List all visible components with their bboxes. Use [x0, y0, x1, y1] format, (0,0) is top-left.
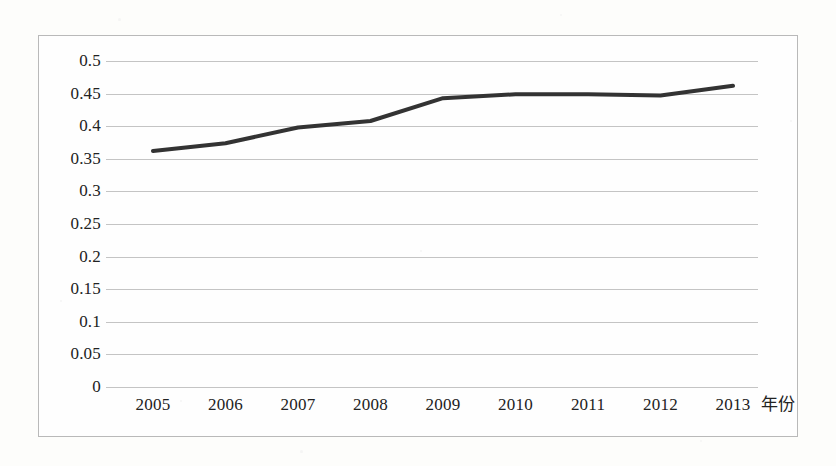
- scan-speckle: [300, 450, 303, 453]
- x-axis-tick-label: 2005: [113, 396, 193, 413]
- x-axis-title: 年份: [761, 396, 795, 413]
- x-axis-tick-labels: 200520062007200820092010201120122013: [106, 396, 758, 424]
- scan-speckle: [560, 14, 562, 16]
- y-axis-tick-label: 0.2: [41, 248, 101, 265]
- x-axis-tick-label: 2010: [476, 396, 556, 413]
- y-axis-tick-label: 0.5: [41, 52, 101, 69]
- scan-speckle: [60, 300, 62, 302]
- plot-area: [106, 61, 758, 387]
- y-axis-tick-label: 0.4: [41, 117, 101, 134]
- y-axis-tick-label: 0.25: [41, 215, 101, 232]
- line-series: [106, 61, 758, 387]
- series-polyline: [153, 86, 733, 151]
- y-axis-tick-label: 0.3: [41, 182, 101, 199]
- x-axis-tick-label: 2007: [258, 396, 338, 413]
- y-axis-tick-label: 0.15: [41, 280, 101, 297]
- y-axis-tick-label: 0.05: [41, 345, 101, 362]
- x-axis-tick-label: 2009: [403, 396, 483, 413]
- x-axis-tick-label: 2011: [548, 396, 628, 413]
- y-axis-tick-label: 0.1: [41, 313, 101, 330]
- scan-speckle: [180, 400, 182, 402]
- scan-speckle: [118, 18, 121, 21]
- y-axis-tick-labels: 00.050.10.150.20.250.30.350.40.450.5: [39, 61, 101, 387]
- gridline: [106, 387, 758, 388]
- x-axis-tick-label: 2008: [331, 396, 411, 413]
- x-axis-tick-label: 2012: [621, 396, 701, 413]
- y-axis-tick-label: 0: [41, 378, 101, 395]
- y-axis-tick-label: 0.45: [41, 85, 101, 102]
- y-axis-tick-label: 0.35: [41, 150, 101, 167]
- scan-speckle: [700, 440, 702, 442]
- scan-speckle: [790, 120, 792, 122]
- chart-frame: 00.050.10.150.20.250.30.350.40.450.5 200…: [38, 35, 798, 437]
- page-background: 00.050.10.150.20.250.30.350.40.450.5 200…: [0, 0, 836, 466]
- scan-speckle: [420, 250, 422, 252]
- x-axis-tick-label: 2006: [186, 396, 266, 413]
